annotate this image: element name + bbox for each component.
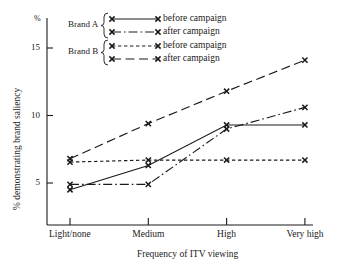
legend-entry-label: before campaign <box>163 40 227 50</box>
legend-brace-marks <box>101 13 108 65</box>
data-point-marker <box>224 89 229 94</box>
series-line <box>70 60 305 159</box>
legend-brand-label: Brand A <box>68 19 98 29</box>
data-point-marker <box>146 182 151 187</box>
y-tick-label: 5 <box>20 177 40 187</box>
data-point-marker <box>146 121 151 126</box>
series-line <box>70 160 305 162</box>
y-tick-label: 15 <box>20 42 40 52</box>
data-point-marker <box>67 156 72 161</box>
data-point-marker <box>302 58 307 63</box>
y-axis-unit-symbol: % <box>34 14 41 23</box>
x-tick-label-medium: Medium <box>132 229 164 239</box>
data-series-lines <box>70 60 305 190</box>
legend-entry-label: before campaign <box>163 13 227 23</box>
x-axis-ticks <box>70 218 305 225</box>
legend-line-swatches <box>109 16 160 61</box>
chart-container: % % demonstrating brand saliency Frequen… <box>0 0 337 273</box>
series-line <box>70 125 305 190</box>
legend-entry-label: after campaign <box>163 53 220 63</box>
y-axis-ticks <box>47 48 53 183</box>
x-tick-label-light-none: Light/none <box>49 229 91 239</box>
data-point-marker <box>302 157 307 162</box>
y-tick-label: 10 <box>20 110 40 120</box>
y-axis-title: % demonstrating brand saliency <box>12 88 22 210</box>
legend-brace <box>101 13 108 38</box>
data-point-marker <box>155 29 160 34</box>
legend-brand-label: Brand B <box>68 46 98 56</box>
series-line <box>70 107 305 184</box>
legend-brace <box>101 40 108 65</box>
x-tick-label-high: High <box>217 229 236 239</box>
x-tick-label-very-high: Very high <box>286 229 323 239</box>
x-axis-title: Frequency of ITV viewing <box>137 249 238 259</box>
legend-entry-label: after campaign <box>163 26 220 36</box>
data-point-marker <box>224 126 229 131</box>
